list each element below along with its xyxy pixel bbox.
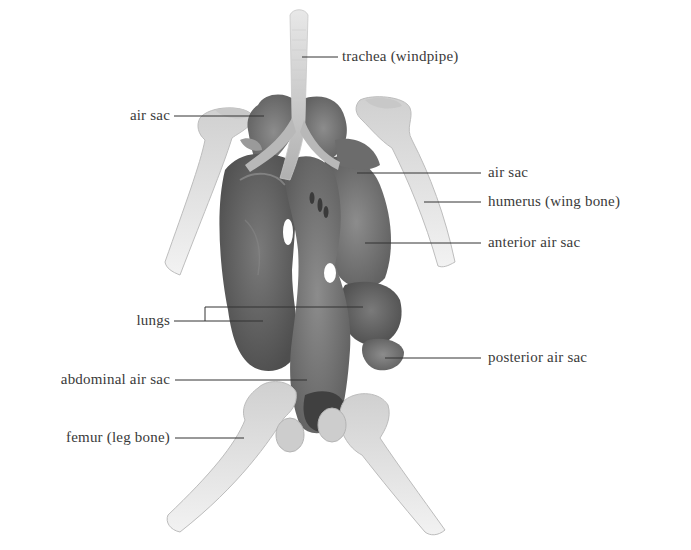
label-anterior-air-sac: anterior air sac xyxy=(488,233,580,251)
left-femur xyxy=(167,382,304,532)
label-air-sac-right: air sac xyxy=(488,163,528,181)
label-air-sac-left: air sac xyxy=(100,106,170,124)
label-lungs: lungs xyxy=(80,311,170,329)
label-humerus: humerus (wing bone) xyxy=(488,192,620,210)
label-posterior-air-sac: posterior air sac xyxy=(488,348,587,366)
label-trachea: trachea (windpipe) xyxy=(342,47,458,65)
anatomy-diagram: trachea (windpipe) air sac air sac humer… xyxy=(0,0,691,550)
label-femur: femur (leg bone) xyxy=(0,428,170,446)
bird-respiratory-illustration xyxy=(0,0,691,550)
label-abdominal-air-sac: abdominal air sac xyxy=(0,370,170,388)
trachea xyxy=(245,10,340,180)
right-femur xyxy=(318,394,445,535)
